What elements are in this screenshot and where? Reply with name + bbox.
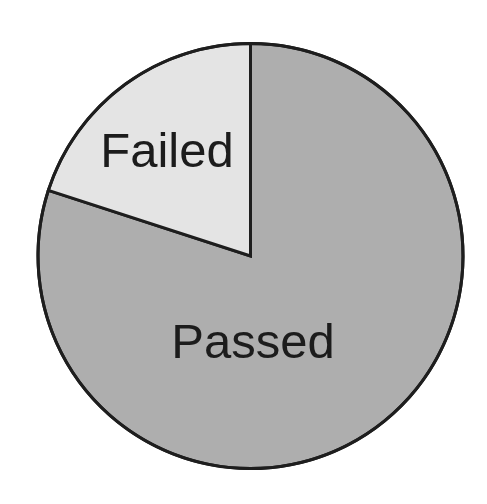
pie-chart: Failed Passed	[0, 0, 487, 504]
passed-label: Passed	[171, 314, 334, 368]
pie-slices	[38, 44, 463, 469]
failed-label: Failed	[100, 123, 233, 177]
